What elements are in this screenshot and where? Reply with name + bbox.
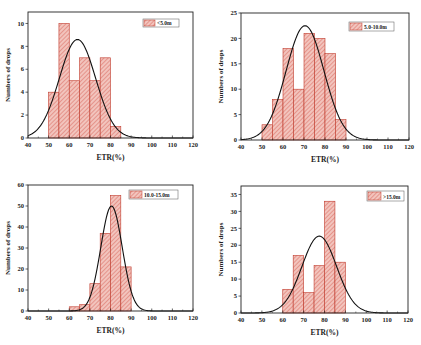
y-tick-label: 60 bbox=[18, 181, 25, 188]
y-tick-label: 0 bbox=[21, 134, 24, 141]
x-tick-label: 40 bbox=[238, 316, 245, 323]
legend: 10.0-15.0m bbox=[129, 190, 178, 199]
histogram-bar bbox=[304, 33, 315, 140]
x-tick-label: 60 bbox=[66, 141, 73, 148]
x-tick-label: 60 bbox=[280, 143, 287, 150]
y-tick-label: 4 bbox=[21, 88, 25, 95]
y-tick-label: 35 bbox=[231, 191, 238, 198]
histogram-bar bbox=[49, 92, 59, 138]
y-tick-label: 10 bbox=[231, 85, 238, 92]
x-axis-label: ETR(%) bbox=[97, 153, 125, 162]
legend-swatch bbox=[144, 20, 155, 26]
x-tick-label: 100 bbox=[147, 314, 157, 321]
y-axis: 0246810 bbox=[18, 20, 29, 142]
x-tick-label: 120 bbox=[188, 141, 198, 148]
x-tick-label: 70 bbox=[87, 141, 94, 148]
y-axis-label: Numbers of drops bbox=[217, 49, 225, 103]
y-tick-label: 6 bbox=[21, 65, 25, 72]
x-tick-label: 100 bbox=[361, 316, 371, 323]
x-tick-label: 70 bbox=[300, 316, 307, 323]
y-tick-label: 5 bbox=[234, 292, 238, 299]
histogram-bar bbox=[314, 266, 324, 313]
y-tick-label: 8 bbox=[21, 43, 25, 50]
legend-label: >15.0m bbox=[383, 194, 401, 200]
y-tick-label: 10 bbox=[18, 286, 25, 293]
legend: 5.0-10.0m bbox=[349, 22, 394, 31]
histogram-panel-10-15m: 4050607080901001101200102030405060ETR(%)… bbox=[4, 181, 198, 335]
histogram-bar bbox=[111, 127, 121, 138]
y-axis-label: Numbers of drops bbox=[4, 221, 12, 275]
y-tick-label: 2 bbox=[21, 111, 24, 118]
y-tick-label: 20 bbox=[231, 35, 238, 42]
x-tick-label: 80 bbox=[321, 316, 328, 323]
x-tick-label: 50 bbox=[45, 314, 52, 321]
histogram-figure: 4050607080901001101200246810ETR(%)Number… bbox=[0, 0, 421, 345]
y-tick-label: 5 bbox=[234, 111, 238, 118]
y-axis: 0510152025 bbox=[231, 9, 242, 143]
legend: >15.0m bbox=[367, 191, 404, 201]
x-tick-label: 60 bbox=[66, 314, 73, 321]
histogram-bar bbox=[80, 58, 90, 138]
histogram-panel-gt15m: 40506070809010011012005101520253035ETR(%… bbox=[217, 186, 413, 337]
y-tick-label: 25 bbox=[231, 225, 238, 232]
legend-swatch bbox=[368, 192, 381, 200]
histogram-bar bbox=[273, 99, 284, 140]
y-tick-label: 0 bbox=[234, 309, 237, 316]
histogram-bar bbox=[262, 125, 273, 140]
x-tick-label: 80 bbox=[107, 314, 114, 321]
y-tick-label: 15 bbox=[231, 258, 238, 265]
histogram-bars bbox=[283, 201, 346, 313]
y-tick-label: 20 bbox=[231, 241, 238, 248]
histogram-bars bbox=[49, 23, 121, 138]
histogram-bar bbox=[325, 54, 336, 140]
histogram-bar bbox=[90, 284, 100, 311]
x-tick-label: 40 bbox=[25, 141, 32, 148]
legend-label: 10.0-15.0m bbox=[144, 192, 170, 198]
y-tick-label: 40 bbox=[18, 223, 25, 230]
x-tick-label: 100 bbox=[147, 141, 157, 148]
legend: <5.0m bbox=[143, 19, 179, 27]
x-tick-label: 110 bbox=[168, 314, 177, 321]
legend-swatch bbox=[350, 23, 362, 30]
legend-label: 5.0-10.0m bbox=[364, 24, 387, 30]
histogram-bars bbox=[262, 33, 346, 140]
histogram-bar bbox=[336, 120, 347, 140]
y-tick-label: 30 bbox=[231, 208, 238, 215]
x-tick-label: 50 bbox=[45, 141, 52, 148]
x-tick-label: 40 bbox=[25, 314, 32, 321]
x-tick-label: 120 bbox=[188, 314, 198, 321]
y-tick-label: 0 bbox=[21, 307, 24, 314]
x-tick-label: 50 bbox=[259, 143, 266, 150]
x-axis-label: ETR(%) bbox=[311, 328, 339, 337]
legend-label: <5.0m bbox=[157, 20, 172, 26]
histogram-bar bbox=[294, 89, 305, 140]
histogram-panel-lt5m: 4050607080901001101200246810ETR(%)Number… bbox=[4, 12, 198, 162]
histogram-bar bbox=[304, 293, 314, 313]
histogram-panel-5-10m: 4050607080901001101200510152025ETR(%)Num… bbox=[217, 9, 414, 164]
y-tick-label: 30 bbox=[18, 244, 25, 251]
x-tick-label: 70 bbox=[301, 143, 308, 150]
x-tick-label: 50 bbox=[259, 316, 266, 323]
x-tick-label: 110 bbox=[168, 141, 177, 148]
x-tick-label: 60 bbox=[280, 316, 287, 323]
x-tick-label: 90 bbox=[128, 141, 135, 148]
y-axis: 05101520253035 bbox=[231, 191, 242, 317]
legend-swatch bbox=[130, 191, 142, 198]
x-axis-label: ETR(%) bbox=[311, 155, 339, 164]
x-tick-label: 110 bbox=[383, 143, 392, 150]
y-tick-label: 15 bbox=[231, 60, 238, 67]
y-tick-label: 20 bbox=[18, 265, 25, 272]
x-tick-label: 70 bbox=[87, 314, 94, 321]
y-axis-label: Numbers of drops bbox=[217, 222, 225, 276]
y-tick-label: 50 bbox=[18, 202, 25, 209]
y-axis-label: Numbers of drops bbox=[4, 48, 12, 102]
y-tick-label: 10 bbox=[18, 20, 25, 27]
y-tick-label: 0 bbox=[234, 136, 237, 143]
y-tick-label: 25 bbox=[231, 9, 238, 16]
x-tick-label: 80 bbox=[107, 141, 114, 148]
x-tick-label: 120 bbox=[404, 143, 414, 150]
histogram-bar bbox=[283, 289, 293, 313]
x-tick-label: 100 bbox=[362, 143, 372, 150]
x-axis-label: ETR(%) bbox=[97, 326, 125, 335]
x-tick-label: 80 bbox=[322, 143, 329, 150]
